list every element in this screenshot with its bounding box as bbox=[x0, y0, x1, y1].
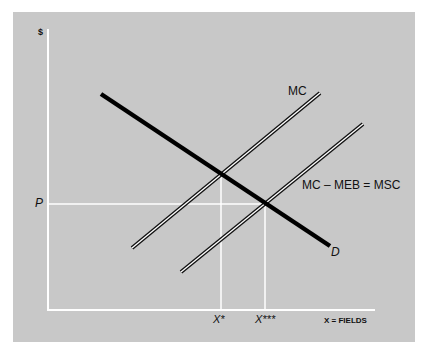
demand-curve bbox=[101, 94, 330, 246]
y-axis-label: $ bbox=[38, 27, 43, 37]
mc-curve bbox=[132, 93, 320, 248]
price-label: P bbox=[35, 196, 43, 210]
demand-label: D bbox=[331, 245, 340, 259]
x-star-label: X* bbox=[213, 313, 225, 325]
x-triple-star-label: X*** bbox=[255, 313, 275, 325]
mc-label: MC bbox=[288, 84, 307, 98]
chart-plot bbox=[0, 0, 428, 354]
x-axis-label: X = FIELDS bbox=[324, 316, 367, 325]
msc-label: MC – MEB = MSC bbox=[302, 178, 400, 192]
